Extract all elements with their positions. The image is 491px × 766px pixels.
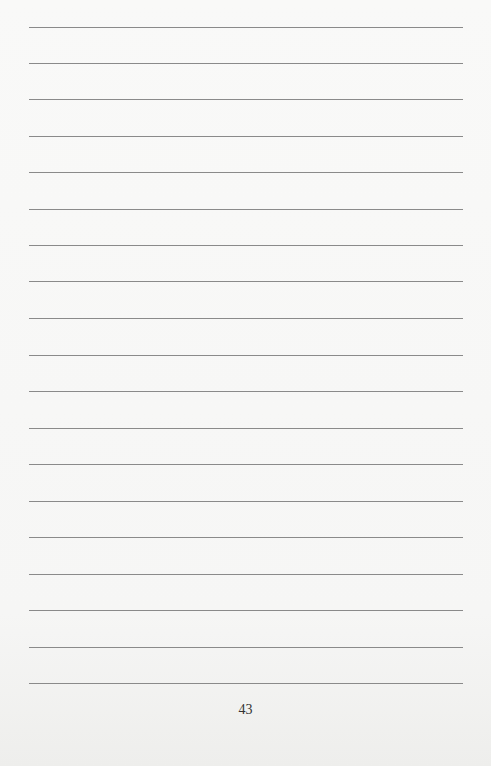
ruled-line [29,683,463,684]
ruled-line [29,610,463,611]
ruled-line [29,172,463,173]
ruled-line [29,537,463,538]
ruled-line [29,391,463,392]
ruled-line [29,209,463,210]
ruled-line [29,501,463,502]
ruled-line [29,318,463,319]
page-number: 43 [0,702,491,718]
ruled-line [29,428,463,429]
ruled-line [29,136,463,137]
ruled-line [29,99,463,100]
ruled-line [29,27,463,28]
notebook-page: 43 [0,0,491,766]
ruled-line [29,245,463,246]
ruled-line [29,464,463,465]
ruled-line [29,355,463,356]
ruled-line [29,63,463,64]
ruled-line [29,281,463,282]
ruled-line [29,574,463,575]
ruled-line [29,647,463,648]
